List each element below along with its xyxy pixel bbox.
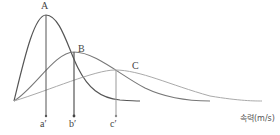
curve-label-c: C (132, 60, 139, 71)
curve-b (14, 52, 210, 101)
x-axis-label: 속력(m/s) (240, 112, 275, 123)
curve-label-a: A (41, 0, 48, 11)
marker-label-a: a′ (40, 118, 47, 129)
distribution-diagram (0, 0, 280, 135)
curve-a (14, 15, 140, 101)
marker-dot-c (115, 115, 117, 117)
marker-label-b: b′ (69, 118, 76, 129)
marker-dot-a (45, 115, 47, 117)
marker-label-c: c′ (110, 118, 117, 129)
curve-c (14, 70, 262, 101)
marker-dot-b (73, 115, 76, 118)
curve-label-b: B (78, 43, 85, 54)
